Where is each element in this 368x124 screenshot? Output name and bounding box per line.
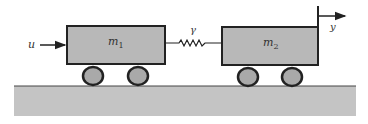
wheel-icon (83, 67, 103, 85)
input-force: u (28, 38, 65, 51)
output-label: y (329, 21, 336, 32)
cart-m2: m2 (222, 27, 318, 86)
wheel-icon (238, 68, 258, 86)
cart-m1: m1 (67, 26, 165, 85)
wheel-icon (282, 68, 302, 86)
mass-spring-diagram: u m1 γ m2 y (0, 0, 368, 124)
spring-icon (165, 40, 222, 46)
wheel-icon (128, 67, 148, 85)
spring-label: γ (190, 24, 196, 35)
ground (14, 86, 356, 116)
input-label: u (28, 38, 35, 51)
spring: γ (165, 24, 222, 46)
output-position: y (318, 6, 345, 32)
